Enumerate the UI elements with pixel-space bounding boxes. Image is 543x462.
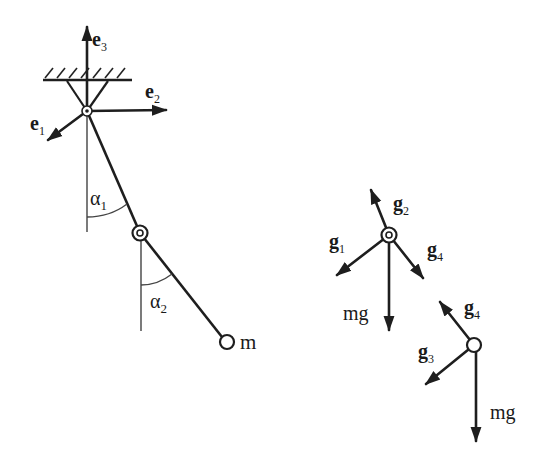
g2-label: g2 bbox=[393, 192, 409, 218]
upper-fbd-joint bbox=[382, 228, 397, 243]
mg-label-lower: mg bbox=[490, 401, 516, 424]
diagram-svg: e3 e2 e1 α1 α2 m g2 g1 g4 mg g4 g3 mg bbox=[0, 0, 543, 462]
e2-label: e2 bbox=[145, 80, 160, 106]
rod-1 bbox=[87, 111, 140, 233]
lower-fbd-mass bbox=[467, 338, 481, 352]
mass-label: m bbox=[240, 330, 256, 354]
alpha2-label: α2 bbox=[150, 290, 167, 316]
e2-arrow bbox=[87, 110, 166, 111]
g3-label: g3 bbox=[418, 340, 434, 366]
g4-label-upper: g4 bbox=[427, 238, 443, 264]
g4-label-lower: g4 bbox=[464, 296, 480, 322]
top-pivot bbox=[82, 106, 92, 116]
alpha2-arc bbox=[141, 274, 172, 285]
g1-label: g1 bbox=[329, 230, 345, 256]
e1-arrow bbox=[48, 111, 87, 140]
ceiling-hatching bbox=[45, 68, 125, 78]
mass-bob bbox=[220, 335, 234, 349]
mg-label-upper: mg bbox=[343, 302, 369, 325]
alpha1-label: α1 bbox=[90, 187, 107, 213]
middle-joint bbox=[133, 226, 148, 241]
e1-label: e1 bbox=[30, 112, 45, 138]
pendulum-diagram: e3 e2 e1 α1 α2 m g2 g1 g4 mg g4 g3 mg bbox=[0, 0, 543, 462]
e3-label: e3 bbox=[92, 28, 107, 54]
rod-2 bbox=[140, 233, 222, 337]
